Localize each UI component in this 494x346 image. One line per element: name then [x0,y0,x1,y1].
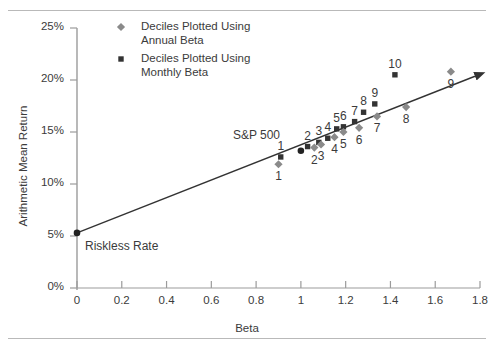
x-tick-label: 0.8 [236,294,276,306]
y-tick-label: 5% [24,228,64,240]
data-point-square-10 [392,72,397,77]
y-axis-title: Arithmetic Mean Return [17,81,29,251]
point-label-annual-1: 1 [265,169,293,183]
x-tick-label: 0.6 [191,294,231,306]
chart-container: Arithmetic Mean Return Beta 0%5%10%15%20… [0,0,494,346]
legend-entry-1: Deciles Plotted UsingMonthly Beta [141,51,250,79]
data-point-diamond-1 [274,160,282,168]
point-label-monthly-9: 9 [361,86,389,100]
riskless-rate-label: Riskless Rate [85,239,158,253]
legend-label-line2: Annual Beta [141,33,250,47]
data-point-square-2 [305,144,310,149]
x-tick-label: 1.8 [460,294,494,306]
point-label-annual-8: 8 [392,112,420,126]
sp500-label: S&P 500 [233,128,280,142]
x-tick-label: 1 [281,294,321,306]
y-tick-label: 10% [24,176,64,188]
x-tick-label: 1.2 [326,294,366,306]
point-label-annual-9: 9 [437,77,465,91]
legend-label-line1: Deciles Plotted Using [141,51,250,65]
y-tick-label: 20% [24,72,64,84]
x-tick-label: 1.4 [370,294,410,306]
y-tick-label: 25% [24,20,64,32]
legend-marker-diamond [117,23,125,31]
data-points [74,68,455,237]
point-label-annual-7: 7 [363,121,391,135]
legend-label-line1: Deciles Plotted Using [141,19,250,33]
y-axis-ticks [70,28,77,288]
x-tick-label: 0.4 [147,294,187,306]
data-point-dot-RisklessRate [74,230,81,237]
y-tick-label: 15% [24,124,64,136]
x-axis-ticks [77,281,480,288]
legend-label-line2: Monthly Beta [141,65,250,79]
data-point-diamond-6 [355,124,363,132]
legend-entry-0: Deciles Plotted UsingAnnual Beta [141,19,250,47]
y-tick-label: 0% [24,280,64,292]
x-axis-title: Beta [0,322,494,334]
security-market-line [77,76,476,233]
data-point-square-1 [278,154,283,159]
x-tick-label: 1.6 [415,294,455,306]
x-tick-label: 0 [57,294,97,306]
point-label-monthly-10: 10 [381,57,409,71]
legend-markers [117,23,125,62]
sml-line [77,76,476,233]
x-tick-label: 0.2 [102,294,142,306]
data-point-diamond-9 [447,68,455,76]
legend-marker-square [118,56,123,61]
